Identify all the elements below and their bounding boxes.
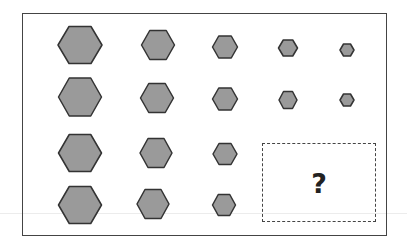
hexagon-r1-c1	[58, 27, 102, 64]
hexagon-r4-c1	[59, 187, 102, 224]
hexagon-r3-c3	[213, 144, 237, 165]
hexagon-r2-c2	[141, 84, 174, 113]
hexagon-r1-c5	[340, 44, 354, 56]
hexagon-r4-c3	[213, 195, 236, 216]
hexagon-r2-c4	[279, 92, 297, 109]
hexagon-r4-c2	[137, 190, 169, 219]
hexagon-r1-c3	[213, 36, 238, 58]
hexagon-r1-c2	[142, 31, 175, 60]
hexagon-r3-c2	[140, 139, 172, 168]
hexagon-r2-c5	[340, 94, 354, 106]
puzzle-canvas: ?	[0, 0, 407, 250]
hexagon-r1-c4	[279, 40, 298, 56]
hexagon-r2-c3	[213, 88, 238, 110]
question-mark: ?	[263, 144, 375, 221]
hexagon-r2-c1	[59, 78, 102, 116]
hexagon-r3-c1	[59, 135, 102, 172]
missing-answer-box[interactable]: ?	[262, 143, 376, 222]
